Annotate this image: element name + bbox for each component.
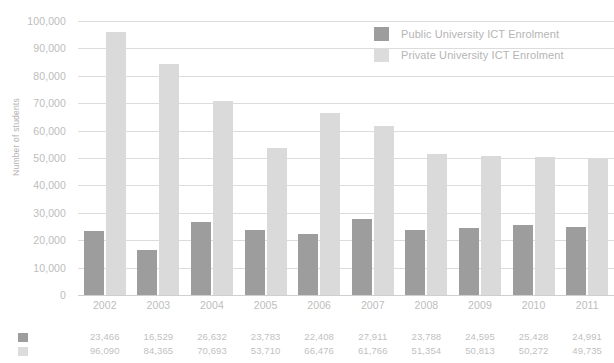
data-table-cell: 23,466 (78, 331, 132, 342)
bar-public-2006 (298, 234, 318, 295)
bar-private-2002 (106, 32, 126, 295)
bar-public-2011 (566, 227, 586, 295)
x-axis-tick-labels: 2002200320042005200620072008200920102011 (78, 299, 614, 315)
x-axis-tick-label: 2005 (239, 299, 293, 311)
bar-public-2004 (191, 222, 211, 295)
x-axis-tick-label: 2006 (292, 299, 346, 311)
data-table-cell: 23,783 (239, 331, 293, 342)
bar-private-2008 (427, 154, 447, 295)
bar-private-2011 (588, 159, 608, 295)
data-table-cell: 53,710 (239, 345, 293, 356)
y-axis-tick-labels: 100,00090,00080,00070,00060,00050,00040,… (0, 0, 72, 305)
data-table-cell: 50,813 (453, 345, 507, 356)
private-swatch-icon (374, 48, 389, 62)
y-axis-tick-label: 100,000 (27, 15, 66, 27)
data-table-cell: 70,693 (185, 345, 239, 356)
bar-public-2008 (405, 230, 425, 295)
data-table-cell: 22,408 (292, 331, 346, 342)
x-axis-tick-label: 2002 (78, 299, 132, 311)
y-axis-tick-label: 50,000 (33, 152, 66, 164)
bar-public-2010 (513, 225, 533, 295)
y-axis-tick-label: 10,000 (33, 262, 66, 274)
x-axis-tick-label: 2004 (185, 299, 239, 311)
y-axis-tick-label: 60,000 (33, 125, 66, 137)
x-axis-tick-label: 2009 (453, 299, 507, 311)
public-swatch-icon (18, 333, 28, 342)
data-table-cell: 49,735 (560, 345, 614, 356)
data-table-cell: 50,272 (507, 345, 561, 356)
y-axis-tick-label: 70,000 (33, 97, 66, 109)
data-table-cell: 26,632 (185, 331, 239, 342)
data-table-cell: 66,476 (292, 345, 346, 356)
bar-private-2003 (159, 64, 179, 295)
legend-item-public: Public University ICT Enrolment (374, 23, 612, 44)
y-axis-tick-label: 0 (60, 289, 66, 301)
data-table-cell: 24,595 (453, 331, 507, 342)
x-axis-tick-label: 2010 (507, 299, 561, 311)
bar-chart-figure: Number of students 100,00090,00080,00070… (0, 0, 614, 363)
data-table-cell: 24,991 (560, 331, 614, 342)
data-table-cell: 23,788 (400, 331, 454, 342)
chart-data-table: 23,46616,52926,63223,78322,40827,91123,7… (18, 331, 614, 361)
private-swatch-icon (18, 347, 28, 356)
bar-private-2009 (481, 156, 501, 295)
legend-item-private: Private University ICT Enrolment (374, 44, 612, 65)
bar-public-2009 (459, 228, 479, 295)
legend-label-public: Public University ICT Enrolment (401, 28, 559, 40)
y-axis-tick-label: 40,000 (33, 179, 66, 191)
bar-private-2010 (535, 157, 555, 295)
bar-public-2002 (84, 231, 104, 295)
data-table-cell: 16,529 (132, 331, 186, 342)
x-axis-tick-label: 2011 (560, 299, 614, 311)
bar-public-2005 (245, 230, 265, 295)
y-axis-tick-label: 80,000 (33, 70, 66, 82)
legend-label-private: Private University ICT Enrolment (401, 49, 564, 61)
bar-private-2006 (320, 113, 340, 295)
bar-private-2007 (374, 126, 394, 295)
y-axis-tick-label: 90,000 (33, 42, 66, 54)
data-table-cell: 27,911 (346, 331, 400, 342)
plot-area: Public University ICT Enrolment Private … (78, 21, 614, 295)
y-axis-tick-label: 30,000 (33, 207, 66, 219)
data-table-row-private: 96,09084,36570,69353,71066,47661,76651,3… (18, 345, 614, 359)
bar-public-2003 (137, 250, 157, 295)
bar-public-2007 (352, 219, 372, 295)
x-axis-tick-label: 2007 (346, 299, 400, 311)
data-table-row-public: 23,46616,52926,63223,78322,40827,91123,7… (18, 331, 614, 345)
y-axis-tick-label: 20,000 (33, 234, 66, 246)
x-axis-tick-label: 2008 (400, 299, 454, 311)
data-table-cell: 96,090 (78, 345, 132, 356)
x-axis-tick-label: 2003 (132, 299, 186, 311)
data-table-cell: 51,354 (400, 345, 454, 356)
chart-legend: Public University ICT Enrolment Private … (374, 23, 612, 65)
bar-private-2004 (213, 101, 233, 295)
bar-private-2005 (267, 148, 287, 295)
data-table-cell: 84,365 (132, 345, 186, 356)
public-swatch-icon (374, 27, 389, 41)
data-table-cell: 61,766 (346, 345, 400, 356)
axis-baseline (78, 295, 614, 296)
data-table-cell: 25,428 (507, 331, 561, 342)
